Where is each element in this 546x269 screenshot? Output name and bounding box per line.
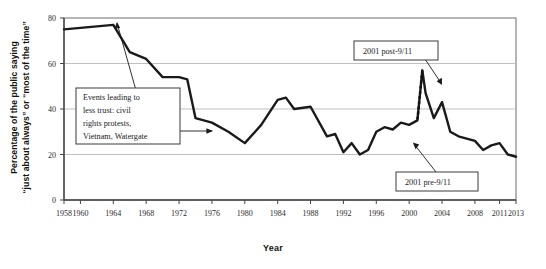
x-tick-label: 2004 (434, 209, 450, 218)
x-tick-label: 1996 (368, 209, 384, 218)
x-tick-label: 2008 (467, 209, 483, 218)
x-tick-label: 1972 (171, 209, 187, 218)
y-tick-label: 60 (48, 60, 56, 69)
x-tick-label: 1992 (335, 209, 351, 218)
x-tick-label: 2000 (401, 209, 417, 218)
x-tick-label: 1976 (204, 209, 220, 218)
x-tick-label: 2013 (508, 209, 524, 218)
annotation-text-line-3: rights protests, (83, 119, 131, 128)
x-tick-label: 1988 (303, 209, 319, 218)
x-tick-label: 1964 (105, 209, 121, 218)
y-tick-label: 0 (52, 196, 56, 205)
y-tick-label: 80 (48, 14, 56, 23)
x-tick-label: 1958 (56, 209, 72, 218)
annotation-text: 2001 pre-9/11 (405, 178, 451, 187)
x-tick-label: 1960 (72, 209, 88, 218)
annotation-text: 2001 post-9/11 (363, 47, 412, 56)
y-axis-ticks: 020406080 (48, 14, 64, 205)
x-tick-label: 1968 (138, 209, 154, 218)
y-tick-label: 20 (48, 151, 56, 160)
x-axis-title: Year (0, 243, 546, 253)
annotation-text-line-4: Vietnam, Watergate (83, 132, 148, 141)
trust-in-government-line-chart: Percentage of the public saying “just ab… (0, 0, 546, 269)
x-tick-label: 2011 (492, 209, 508, 218)
annotation-text-line-1: Events leading to (83, 93, 140, 102)
x-axis-ticks: 1958196019641968197219761980198419881992… (56, 200, 524, 218)
plot-area: 020406080 195819601964196819721976198019… (0, 0, 546, 269)
y-tick-label: 40 (48, 105, 56, 114)
x-tick-label: 1980 (237, 209, 253, 218)
x-tick-label: 1984 (270, 209, 286, 218)
annotation-text-line-2: less trust: civil (83, 106, 131, 115)
